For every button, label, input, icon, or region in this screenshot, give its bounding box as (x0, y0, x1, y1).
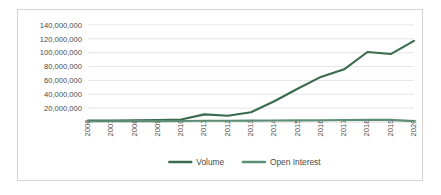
x-axis-tick-label: 2010 (176, 120, 185, 137)
y-axis-tick-label: 120,000,000 (40, 35, 82, 44)
x-axis-tick-label: 2011 (199, 120, 208, 136)
x-axis-tick-label: 2012 (223, 120, 232, 137)
x-axis-tick-label: 2016 (316, 120, 325, 137)
y-axis-tick-label: 40,000,000 (44, 90, 82, 99)
x-axis-tick-label: 2019 (386, 120, 395, 137)
x-axis-tick-label: 2018 (362, 120, 371, 137)
plot-area: 20,000,00040,000,00060,000,00080,000,000… (18, 10, 422, 180)
y-axis-tick-labels: 20,000,00040,000,00060,000,00080,000,000… (40, 21, 82, 113)
line-chart: 20,000,00040,000,00060,000,00080,000,000… (18, 10, 424, 182)
y-axis-tick-label: 60,000,000 (44, 76, 82, 85)
chart-legend: VolumeOpen Interest (169, 157, 321, 167)
y-axis-tick-label: 20,000,000 (44, 104, 82, 113)
gridlines-group (88, 25, 414, 122)
x-axis-tick-label: 2013 (246, 120, 255, 137)
y-axis-tick-label: 140,000,000 (40, 21, 82, 30)
legend-label-volume: Volume (196, 157, 224, 167)
y-axis-tick-label: 80,000,000 (44, 62, 82, 71)
x-axis-tick-label: 2015 (293, 120, 302, 137)
chart-container: 20,000,00040,000,00060,000,00080,000,000… (17, 9, 423, 181)
y-axis-tick-label: 100,000,000 (40, 48, 82, 57)
x-axis-tick-label: 2017 (339, 120, 348, 137)
legend-label-open-interest: Open Interest (270, 157, 321, 167)
x-axis-tick-label: 2014 (269, 120, 278, 137)
